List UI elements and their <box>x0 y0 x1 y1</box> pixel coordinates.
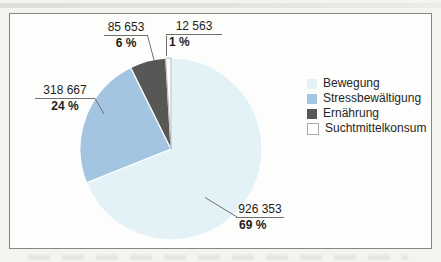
legend-label-ernaehrung: Ernährung <box>323 107 379 120</box>
legend-swatch-suchtmittelkonsum <box>307 123 319 135</box>
callout-value-bewegung: 926 353 <box>236 203 284 218</box>
callout-percent-suchtmittelkonsum: 1 % <box>166 35 222 49</box>
legend: Bewegung Stressbewältigung Ernährung Suc… <box>307 76 426 136</box>
legend-label-suchtmittelkonsum: Suchtmittelkonsum <box>325 122 426 135</box>
legend-item-stressbewaeltigung: Stressbewältigung <box>307 91 426 106</box>
legend-swatch-ernaehrung <box>307 109 317 119</box>
callout-suchtmittelkonsum: 12 563 1 % <box>166 20 222 49</box>
callout-value-ernaehrung: 85 653 <box>104 21 148 36</box>
legend-label-stressbewaeltigung: Stressbewältigung <box>323 92 421 105</box>
legend-item-ernaehrung: Ernährung <box>307 106 426 121</box>
callout-ernaehrung: 85 653 6 % <box>104 21 148 50</box>
callout-percent-ernaehrung: 6 % <box>104 36 148 50</box>
legend-item-bewegung: Bewegung <box>307 76 426 91</box>
callout-percent-stressbewaeltigung: 24 % <box>35 99 95 113</box>
legend-swatch-bewegung <box>307 79 317 89</box>
leader-line-ernaehrung <box>148 36 155 61</box>
figure-page: 85 653 6 % 12 563 1 % 318 667 24 % 926 3… <box>0 0 441 262</box>
callout-percent-bewegung: 69 % <box>236 218 284 232</box>
callout-value-stressbewaeltigung: 318 667 <box>35 84 95 99</box>
callout-stressbewaeltigung: 318 667 24 % <box>35 84 95 113</box>
legend-item-suchtmittelkonsum: Suchtmittelkonsum <box>307 121 426 136</box>
callout-value-suchtmittelkonsum: 12 563 <box>166 20 222 35</box>
legend-swatch-stressbewaeltigung <box>307 94 317 104</box>
callout-bewegung: 926 353 69 % <box>236 203 284 232</box>
legend-label-bewegung: Bewegung <box>323 77 380 90</box>
pie-slices-group <box>80 58 262 240</box>
